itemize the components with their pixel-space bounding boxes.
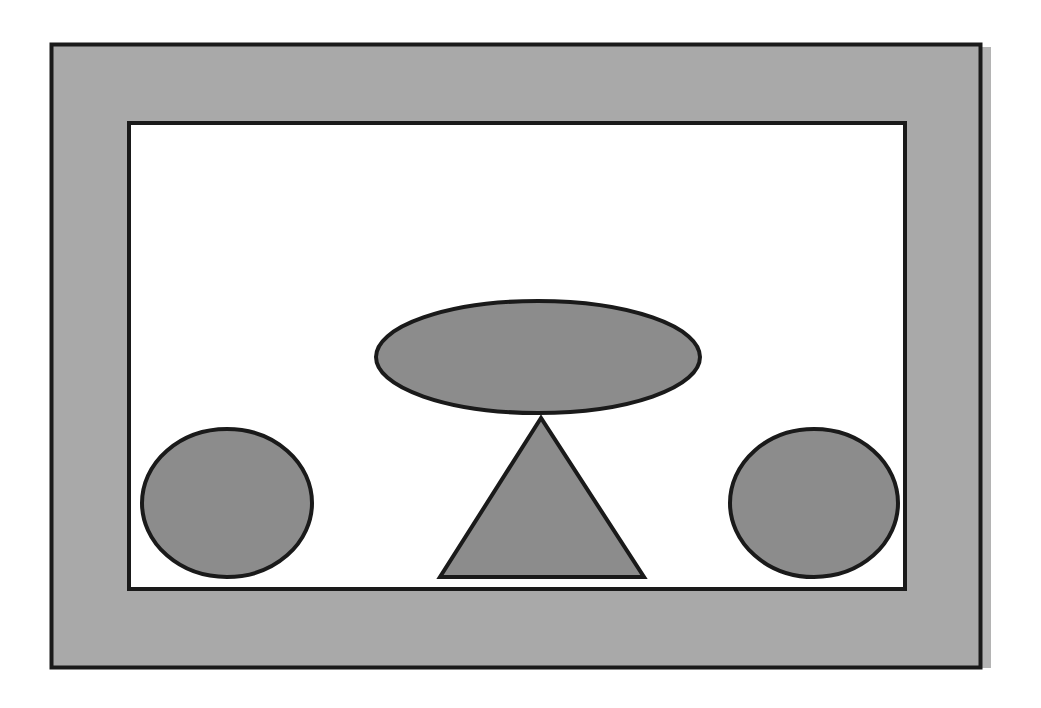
right-circle <box>730 429 898 577</box>
diagram-canvas <box>0 0 1041 708</box>
top-ellipse <box>376 301 700 413</box>
left-circle <box>142 429 312 577</box>
